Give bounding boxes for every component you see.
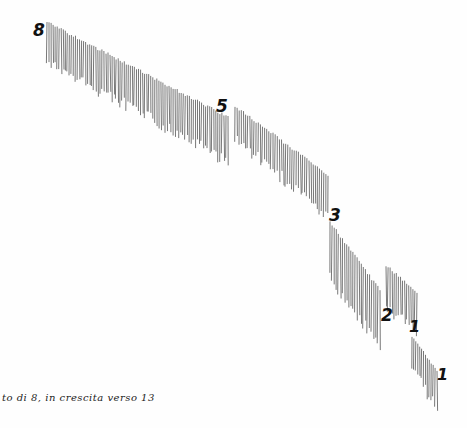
ink-stroke <box>405 281 406 324</box>
ink-stroke <box>46 22 47 63</box>
ink-stroke <box>247 116 248 148</box>
ink-stroke <box>331 226 332 281</box>
handwritten-caption: to di 8, in crescita verso 13 <box>2 392 155 403</box>
ink-stroke <box>282 140 283 171</box>
ink-stroke <box>359 261 360 315</box>
ink-stroke <box>147 74 148 112</box>
ink-stroke <box>253 121 254 155</box>
ink-stroke <box>143 73 144 114</box>
ink-stroke <box>83 41 84 77</box>
ink-stroke <box>367 274 368 333</box>
ink-stroke <box>285 144 286 187</box>
ink-stroke <box>321 170 322 211</box>
ink-stroke <box>221 113 222 154</box>
ink-stroke <box>67 33 68 71</box>
numeral-label: 3 <box>329 205 341 225</box>
hatched-strokes <box>0 0 467 428</box>
ink-stroke <box>61 28 62 74</box>
ink-stroke <box>435 368 436 407</box>
ink-stroke <box>148 74 149 112</box>
ink-stroke <box>421 349 422 378</box>
ink-stroke <box>323 173 324 217</box>
ink-stroke <box>161 82 162 131</box>
ink-stroke <box>401 277 402 315</box>
ink-stroke <box>415 341 416 370</box>
ink-stroke <box>429 360 430 398</box>
ink-stroke <box>433 365 434 396</box>
ink-stroke <box>201 103 202 141</box>
ink-stroke <box>338 234 339 295</box>
ink-stroke <box>250 116 251 148</box>
numeral-label: 1 <box>409 317 420 336</box>
ink-stroke <box>59 29 60 70</box>
ink-stroke <box>377 286 378 343</box>
ink-stroke <box>134 67 135 105</box>
numeral-label: 8 <box>33 20 45 40</box>
ink-stroke <box>57 27 58 70</box>
ink-stroke <box>90 44 91 85</box>
ink-stroke <box>183 94 184 135</box>
ink-stroke <box>345 243 346 303</box>
ink-stroke <box>179 93 180 138</box>
ink-stroke <box>115 60 116 99</box>
ink-stroke <box>71 35 72 74</box>
ink-stroke <box>63 29 64 69</box>
numeral-label: 2 <box>381 305 393 325</box>
ink-stroke <box>169 86 170 124</box>
artwork-canvas: 853211 to di 8, in crescita verso 13 <box>0 0 467 428</box>
ink-stroke <box>185 96 186 140</box>
ink-stroke <box>93 46 94 90</box>
ink-stroke <box>275 134 276 172</box>
ink-stroke <box>110 55 111 92</box>
ink-stroke <box>294 151 295 192</box>
ink-stroke <box>302 155 303 193</box>
numeral-label: 5 <box>216 96 228 116</box>
ink-stroke <box>319 169 320 215</box>
ink-stroke <box>340 238 341 299</box>
ink-stroke <box>371 280 372 332</box>
ink-stroke <box>167 86 168 131</box>
ink-stroke <box>114 57 115 94</box>
ink-stroke <box>132 66 133 106</box>
ink-stroke <box>306 158 307 196</box>
numeral-label: 1 <box>437 365 448 384</box>
ink-stroke <box>386 266 387 306</box>
ink-stroke <box>279 139 280 182</box>
ink-stroke <box>210 106 211 153</box>
ink-stroke <box>262 127 263 163</box>
ink-stroke <box>292 150 293 190</box>
ink-stroke <box>126 65 127 111</box>
ink-stroke <box>311 162 312 203</box>
ink-stroke <box>106 54 107 93</box>
ink-stroke <box>309 161 310 199</box>
ink-stroke <box>270 133 271 169</box>
ink-stroke <box>96 47 97 92</box>
ink-stroke <box>98 50 99 97</box>
ink-stroke <box>363 267 364 329</box>
ink-stroke <box>224 116 225 161</box>
ink-stroke <box>122 63 123 101</box>
ink-stroke <box>207 106 208 149</box>
ink-stroke <box>301 155 302 195</box>
ink-stroke <box>287 145 288 185</box>
